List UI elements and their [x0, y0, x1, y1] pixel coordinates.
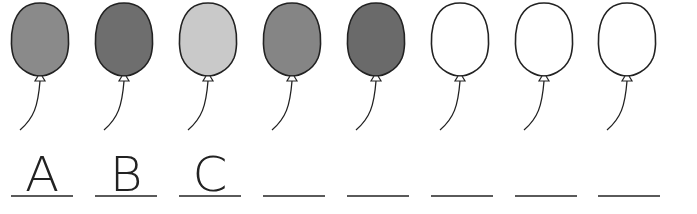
balloon-8	[0, 0, 697, 214]
balloon-string	[607, 81, 627, 130]
balloon-body	[598, 3, 655, 76]
balloon-knot	[622, 76, 632, 81]
answer-blank-8[interactable]	[598, 195, 660, 197]
